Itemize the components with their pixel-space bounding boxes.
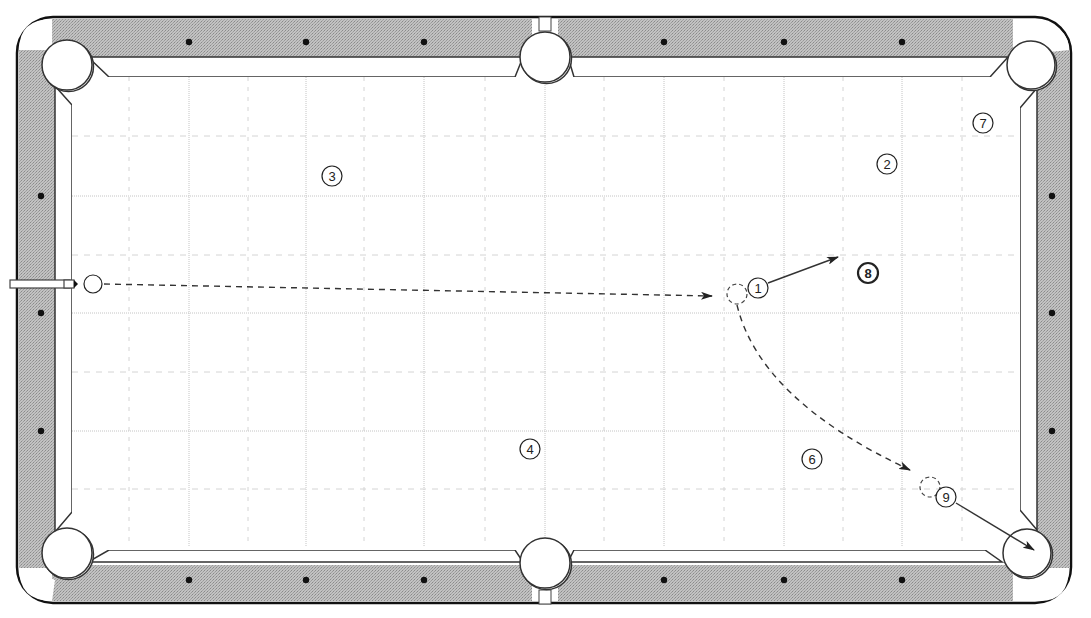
pool-table-diagram: 12346789 [0,0,1091,618]
diamond-marker [303,39,309,45]
diamond-marker [38,310,44,316]
pocket-top-left [42,40,92,90]
pocket-bottom-side [520,538,570,588]
rail-top-right [558,19,1013,57]
diamond-marker [899,39,905,45]
pocket-bottom-left [42,528,92,578]
diamond-marker [781,39,787,45]
ball-2-label: 2 [883,157,890,172]
ball-7-label: 7 [979,116,986,131]
pool-table: 12346789 [0,0,1091,618]
ball-cue-outline [84,275,102,293]
ball-9: 9 [936,487,956,507]
ball-4-label: 4 [526,442,533,457]
pocket-top-right [1007,41,1055,89]
cue-stick-shaft [10,280,70,288]
ball-9-label: 9 [942,490,949,505]
top-side-notch [539,17,551,31]
rail-right [1037,50,1070,568]
ball-7: 7 [973,113,993,133]
cushion-right [1020,88,1037,530]
rail-top-left [52,19,532,57]
diamond-marker [186,39,192,45]
rail-bottom-left [52,565,532,601]
ball-4: 4 [520,439,540,459]
ball-6-label: 6 [808,452,815,467]
cushion-bottom-right [568,550,1002,562]
cushion-left [55,86,72,532]
diamond-marker [1049,310,1055,316]
diamond-marker [661,577,667,583]
ball-1: 1 [748,278,768,298]
rail-bottom-right [558,565,1013,601]
ball-6: 6 [802,449,822,469]
diamond-marker [38,428,44,434]
ball-8: 8 [858,263,878,283]
diamond-marker [661,39,667,45]
cushion-bottom-left [88,550,523,562]
cushion-top-right [568,57,1008,77]
ball-3-label: 3 [328,169,335,184]
ball-1-label: 1 [754,281,761,296]
diamond-marker [899,577,905,583]
diamond-marker [781,577,787,583]
cushion-top-left [88,57,523,77]
diamond-marker [38,193,44,199]
cue-stick [10,280,78,288]
diamond-marker [421,577,427,583]
bottom-side-notch [539,590,551,604]
rail-left [19,50,55,568]
diamond-marker [1049,193,1055,199]
ball-cue [84,275,102,293]
cue-stick-ferrule [64,280,74,288]
diamond-marker [1049,428,1055,434]
diamond-marker [186,577,192,583]
diamond-marker [303,577,309,583]
ball-8-label: 8 [864,266,871,281]
diamond-marker [421,39,427,45]
ball-2: 2 [877,154,897,174]
ball-3: 3 [322,166,342,186]
pocket-top-side [520,32,570,82]
